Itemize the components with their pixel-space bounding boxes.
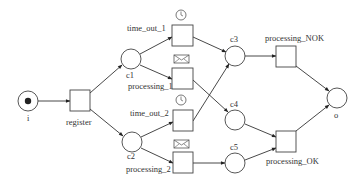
place-c4[interactable]: c4 bbox=[225, 99, 245, 130]
place-label-c4: c4 bbox=[230, 99, 239, 109]
transition-label-time_out_2: time_out_2 bbox=[130, 108, 169, 118]
arc-register-c2 bbox=[90, 109, 123, 136]
clock-icon bbox=[176, 95, 186, 105]
transition-label-processing_1: processing_1 bbox=[128, 81, 173, 91]
transition-label-time_out_1: time_out_1 bbox=[127, 23, 166, 33]
place-c5[interactable]: c5 bbox=[225, 142, 245, 173]
arc-c1-processing_1 bbox=[140, 65, 172, 79]
transition-label-processing_NOK: processing_NOK bbox=[265, 33, 325, 43]
transition-label-processing_OK: processing_OK bbox=[266, 156, 320, 166]
place-c2[interactable]: c2 bbox=[122, 132, 142, 161]
arc-c2-time_out_2 bbox=[141, 122, 173, 137]
clock-icon bbox=[176, 10, 186, 20]
place-c3[interactable]: c3 bbox=[225, 34, 245, 66]
arc-processing_OK-o bbox=[296, 105, 329, 131]
place-label-c1: c1 bbox=[126, 70, 134, 80]
place-label-c2: c2 bbox=[127, 151, 135, 161]
place-i[interactable]: i bbox=[18, 91, 38, 123]
place-label-i: i bbox=[27, 113, 30, 123]
transition-processing_2[interactable]: processing_2 bbox=[126, 152, 193, 174]
place-c1[interactable]: c1 bbox=[121, 49, 141, 80]
transition-processing_NOK[interactable]: processing_NOK bbox=[265, 33, 325, 67]
envelope-icon bbox=[174, 55, 189, 63]
place-label-o: o bbox=[334, 110, 338, 120]
arc-processing_1-c4 bbox=[193, 80, 228, 112]
arc-c2-processing_2 bbox=[141, 148, 173, 163]
transition-processing_1[interactable]: processing_1 bbox=[128, 68, 193, 91]
arc-c1-time_out_1 bbox=[140, 37, 172, 54]
transition-label-register: register bbox=[66, 117, 92, 127]
place-label-c5: c5 bbox=[230, 142, 238, 152]
arc-time_out_2-c3 bbox=[193, 64, 229, 121]
transition-label-processing_2: processing_2 bbox=[126, 164, 171, 174]
transition-time_out_1[interactable]: time_out_1 bbox=[127, 23, 193, 46]
envelope-icon bbox=[174, 140, 189, 148]
transition-register[interactable]: register bbox=[66, 90, 92, 127]
token bbox=[25, 98, 31, 104]
petri-net-diagram: i c1 c2 c3 c4 c5 o register time_out_1 bbox=[0, 0, 363, 187]
arc-c4-processing_OK bbox=[245, 124, 276, 137]
arc-time_out_1-c3 bbox=[193, 37, 226, 52]
arc-processing_NOK-o bbox=[296, 66, 329, 91]
arc-register-c1 bbox=[90, 65, 122, 93]
place-o[interactable]: o bbox=[327, 88, 347, 120]
place-label-c3: c3 bbox=[230, 34, 238, 44]
